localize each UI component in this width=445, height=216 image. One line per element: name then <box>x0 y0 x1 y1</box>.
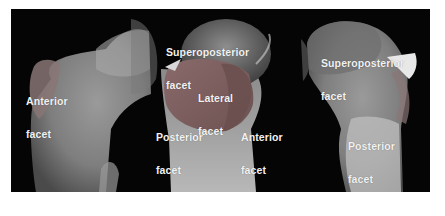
label-posterior-facet-middle: Posterior facet <box>156 110 203 192</box>
label-superoposterior-facet-right: Superoposterior facet <box>321 36 404 124</box>
radiograph-panel: Anterior facet Superoposterior facet Lat… <box>11 9 430 192</box>
label-anterior-facet-left: Anterior facet <box>26 74 68 162</box>
label-posterior-facet-right: Posterior facet <box>348 119 395 192</box>
label-anterior-facet-middle: Anterior facet <box>241 110 283 192</box>
label-lateral-facet: Lateral facet <box>198 71 233 159</box>
